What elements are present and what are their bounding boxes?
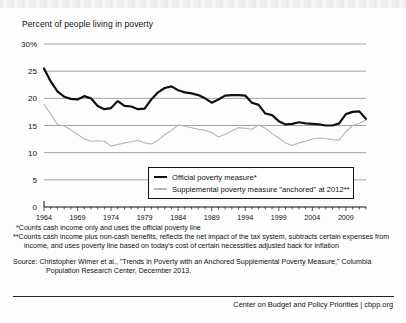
x-axis-tick-label: 1994 (237, 213, 253, 220)
legend-label-supplemental: Supplemental poverty measure "anchored" … (172, 185, 350, 194)
x-axis-tick-label: 1989 (204, 213, 220, 220)
y-axis-tick-label: 25 (28, 67, 37, 76)
y-axis-tick-label: 15 (28, 122, 37, 131)
legend-line-swatch-supplemental (154, 188, 167, 189)
legend-item-official[interactable]: Official poverty measure* (154, 171, 348, 183)
x-axis-tick-label: 1979 (137, 213, 153, 220)
footnotes: *Counts cash income only and uses the of… (13, 224, 394, 276)
footer-attribution: Center on Budget and Policy Priorities |… (233, 300, 393, 309)
footnote-double-asterisk: **Counts cash income plus non-cash benef… (13, 233, 394, 251)
chart-legend: Official poverty measure* Supplemental p… (148, 167, 354, 199)
x-axis-tick-label: 1969 (70, 213, 86, 220)
source-citation: Source: Christopher Wimer et al., "Trend… (13, 258, 394, 276)
x-axis-tick-label: 2004 (304, 213, 320, 220)
x-axis-tick-label: 1984 (170, 213, 186, 220)
x-axis-tick-label: 1964 (36, 213, 52, 220)
y-axis-tick-label: 5 (33, 176, 38, 185)
legend-line-swatch-official (154, 176, 167, 178)
y-axis-tick-label: 10 (28, 149, 37, 158)
legend-item-supplemental[interactable]: Supplemental poverty measure "anchored" … (154, 183, 348, 195)
figure-page: Percent of people living in poverty 0510… (0, 0, 406, 323)
y-axis-tick-label: 20 (28, 94, 37, 103)
footnote-single-asterisk: *Counts cash income only and uses the of… (13, 224, 394, 233)
footer-divider (13, 296, 394, 297)
y-axis-tick-label: 0 (33, 203, 38, 212)
x-axis-tick-label: 2009 (338, 213, 354, 220)
x-axis-tick-label: 1974 (103, 213, 119, 220)
x-axis-tick-label: 1999 (271, 213, 287, 220)
series-line-official (44, 68, 366, 125)
y-axis-tick-label: 30% (21, 40, 37, 49)
legend-label-official: Official poverty measure* (172, 173, 257, 182)
